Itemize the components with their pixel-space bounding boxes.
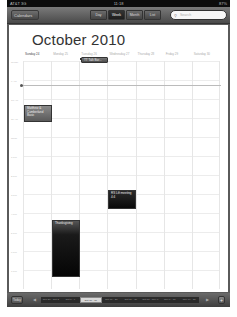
hour-label: 10 AM <box>11 99 18 102</box>
week-item[interactable]: Oct 17 - 23 <box>102 297 122 303</box>
battery-indicator: 87% <box>219 0 227 7</box>
hour-label: all-day <box>11 61 18 64</box>
current-time-dot <box>20 84 23 87</box>
bottom-toolbar: Today ◀ Sep 26 - Oct 2 Oct 3 - 9 Oct 10 … <box>7 293 230 307</box>
clock: 11:18 <box>7 0 230 7</box>
tab-month[interactable]: Month <box>126 10 143 20</box>
tab-week[interactable]: Week <box>108 10 125 20</box>
week-item[interactable]: Oct 24 - 30 <box>121 297 141 303</box>
week-navigation-strip: Sep 26 - Oct 2 Oct 3 - 9 Oct 10 - 16 Oct… <box>41 297 199 303</box>
current-time-line <box>21 85 221 86</box>
status-bar: AT&T 3G 11:18 87% <box>7 0 230 7</box>
calendars-button[interactable]: Calendars <box>11 10 39 20</box>
search-icon: ⚲ <box>174 12 177 20</box>
hour-label: 11 AM <box>11 118 18 121</box>
add-event-button[interactable]: + <box>218 296 225 304</box>
event-rs-meeting[interactable]: RS Lift meeting 4:4 <box>108 190 136 209</box>
event-matthew[interactable]: Matthew & Cumberland Basic <box>24 105 52 122</box>
day-header[interactable]: Monday 25 <box>51 50 79 58</box>
hour-label: 9 AM <box>11 80 17 83</box>
day-header[interactable]: Thursday 28 <box>136 50 164 58</box>
tab-day[interactable]: Day <box>90 10 107 20</box>
tab-list[interactable]: List <box>144 10 161 20</box>
week-item[interactable]: Sep 26 - Oct 2 <box>41 297 61 303</box>
week-item-selected[interactable]: Oct 10 - 16 <box>80 297 102 303</box>
next-week-arrow-icon[interactable]: ▶ <box>206 296 209 304</box>
hour-label: 1 PM <box>11 156 17 159</box>
top-toolbar: Calendars Day Week Month List ⚲ Search <box>7 7 230 24</box>
search-placeholder: Search <box>180 13 191 17</box>
hour-label: 7 PM <box>11 270 17 273</box>
day-header-row: Sunday 24 Monday 25 Tuesday 26 Wednesday… <box>23 50 220 58</box>
week-item[interactable]: Nov 7 - 13 <box>160 297 180 303</box>
event-thanksgiving[interactable]: Thanksgiving <box>52 220 80 277</box>
hour-label: Noon <box>11 137 17 140</box>
page-title: October 2010 <box>32 31 125 48</box>
hour-label: 6 PM <box>11 251 17 254</box>
week-item[interactable]: Nov 14 - 20 <box>180 297 200 303</box>
day-header[interactable]: Friday 29 <box>164 50 192 58</box>
event-talk[interactable]: TT Talk Bar... <box>81 57 108 63</box>
hour-label: 4 PM <box>11 213 17 216</box>
day-header[interactable]: Wednesday 27 <box>107 50 135 58</box>
hour-label: 3 PM <box>11 194 17 197</box>
hour-label: 5 PM <box>11 232 17 235</box>
today-button[interactable]: Today <box>11 296 23 304</box>
week-item[interactable]: Oct 3 - 9 <box>61 297 81 303</box>
hour-label: 2 PM <box>11 175 17 178</box>
week-item[interactable]: Oct 31 - Nov 6 <box>141 297 161 303</box>
calendar-page: October 2010 Sunday 24 Monday 25 Tuesday… <box>9 25 228 292</box>
day-header[interactable]: Sunday 24 <box>23 50 51 58</box>
view-segmented-control: Day Week Month List <box>90 10 162 20</box>
prev-week-arrow-icon[interactable]: ◀ <box>33 296 36 304</box>
search-input[interactable]: ⚲ Search <box>170 10 227 20</box>
day-header[interactable]: Saturday 30 <box>192 50 220 58</box>
